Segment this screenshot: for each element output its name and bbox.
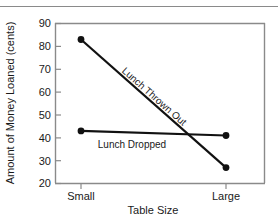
x-tick-label-large: Large: [212, 190, 240, 202]
data-point-dropped-large: [223, 132, 230, 139]
series-label-lunch-dropped: Lunch Dropped: [98, 139, 166, 150]
y-tick-label-80: 80: [39, 40, 51, 52]
series-line-lunch-dropped: [81, 131, 226, 136]
data-point-dropped-small: [78, 127, 85, 134]
series-lunch-thrown-out: Lunch Thrown Out: [78, 36, 230, 171]
y-tick-label-30: 30: [39, 155, 51, 167]
y-tick-label-40: 40: [39, 132, 51, 144]
series-label-lunch-thrown-out: Lunch Thrown Out: [120, 65, 189, 128]
x-tick-label-small: Small: [67, 190, 95, 202]
y-tick-label-60: 60: [39, 86, 51, 98]
y-axis-tick-labels: 90 80 70 60 50 40 30 20: [39, 17, 51, 189]
y-tick-label-20: 20: [39, 177, 51, 189]
x-axis-title: Table Size: [128, 204, 179, 216]
data-point-thrown-out-large: [223, 164, 230, 171]
chart-figure: 90 80 70 60 50 40 30 20 Small Large Tabl…: [0, 0, 278, 219]
y-tick-label-90: 90: [39, 17, 51, 29]
x-axis-tick-labels: Small Large: [67, 190, 240, 202]
chart-canvas: 90 80 70 60 50 40 30 20 Small Large Tabl…: [0, 0, 278, 219]
y-tick-label-70: 70: [39, 63, 51, 75]
data-point-thrown-out-small: [78, 36, 85, 43]
y-tick-label-50: 50: [39, 109, 51, 121]
y-axis-title: Amount of Money Loaned (cents): [4, 22, 16, 185]
series-lunch-dropped: Lunch Dropped: [78, 127, 230, 150]
